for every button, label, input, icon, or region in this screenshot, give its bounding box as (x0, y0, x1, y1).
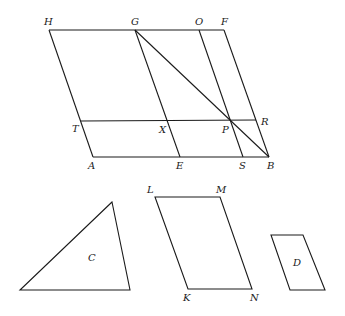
diagonal-GB (135, 30, 269, 157)
point-label-P: P (221, 124, 229, 135)
segment-FB (224, 30, 269, 157)
parallelogram-KLMN-shape (155, 197, 252, 289)
point-label-F: F (220, 16, 229, 27)
point-label-O: O (195, 16, 203, 27)
point-label-B: B (266, 160, 274, 171)
triangle-C: C (20, 202, 130, 290)
shape-label-C: C (88, 252, 96, 263)
point-label-R: R (260, 116, 269, 127)
point-label-E: E (175, 160, 184, 171)
parallelogram-KLMN: L M K N (146, 184, 260, 303)
point-label-M: M (215, 184, 227, 195)
point-label-A: A (87, 160, 95, 171)
point-label-H: H (43, 16, 53, 27)
segment-OS (199, 30, 243, 157)
geometry-diagram: H G O F T X P R A E S B C L M K N D (0, 0, 345, 316)
point-label-N: N (249, 292, 260, 303)
shape-label-D: D (292, 257, 301, 268)
point-label-S: S (239, 160, 246, 171)
point-label-T: T (72, 123, 80, 134)
main-figure: H G O F T X P R A E S B (43, 16, 274, 171)
segment-HA (49, 30, 93, 157)
point-label-L: L (146, 184, 154, 195)
triangle-shape (20, 202, 130, 290)
point-label-X: X (158, 124, 167, 135)
parallelogram-D: D (271, 235, 325, 290)
point-label-G: G (131, 16, 139, 27)
point-label-K: K (182, 292, 191, 303)
segment-GE (135, 30, 180, 157)
